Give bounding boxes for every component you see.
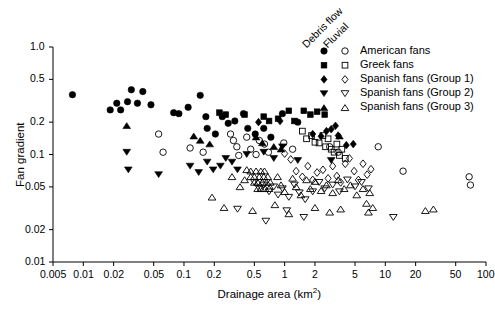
data-point <box>322 112 328 118</box>
legend-marker-fluvial <box>341 91 349 97</box>
data-point <box>318 132 324 140</box>
data-point <box>234 167 242 173</box>
data-point <box>185 104 191 110</box>
legend-marker-fluvial <box>342 48 348 54</box>
data-point <box>230 137 236 143</box>
y-axis-label: Fan gradient <box>14 122 26 187</box>
y-tick-label: 0.5 <box>30 72 45 84</box>
data-point <box>242 112 248 118</box>
data-point <box>124 167 132 173</box>
data-point <box>308 112 314 118</box>
legend-marker-fluvial <box>342 62 348 68</box>
data-point <box>325 175 331 183</box>
data-point <box>293 167 299 175</box>
data-point <box>270 156 278 162</box>
data-point <box>320 166 326 174</box>
data-point <box>268 134 274 140</box>
data-point <box>327 158 335 164</box>
data-point <box>244 134 250 140</box>
legend-marker-debris-flow <box>321 76 327 84</box>
data-point <box>337 206 345 212</box>
data-point <box>270 144 278 150</box>
data-point <box>203 113 209 119</box>
data-point <box>343 141 349 149</box>
data-point <box>262 218 270 224</box>
data-point <box>300 215 308 221</box>
data-point <box>359 186 367 192</box>
data-point <box>128 87 134 93</box>
data-point <box>466 174 472 180</box>
data-point <box>292 118 298 124</box>
x-tick-label: 0.2 <box>207 268 222 280</box>
data-point <box>176 110 182 116</box>
x-axis-label: Drainage area (km2) <box>218 286 322 300</box>
data-point <box>236 152 242 158</box>
data-point <box>363 200 371 206</box>
data-point <box>286 108 292 114</box>
legend-entry-label: Spanish fans (Group 1) <box>360 72 474 84</box>
legend-marker-debris-flow <box>321 62 327 68</box>
data-point <box>222 156 230 162</box>
data-point <box>274 174 282 180</box>
data-point <box>155 131 161 137</box>
data-point <box>353 192 361 198</box>
data-point <box>160 149 166 155</box>
data-point <box>200 149 206 155</box>
data-point <box>368 165 374 173</box>
data-point <box>148 102 154 108</box>
data-point <box>204 125 210 131</box>
data-point <box>234 206 242 212</box>
data-point <box>123 123 131 129</box>
data-point <box>203 159 211 165</box>
x-tick-label: 1 <box>282 268 288 280</box>
y-tick-label: 1.0 <box>30 40 45 52</box>
data-point <box>364 171 370 179</box>
data-point <box>155 172 163 178</box>
data-point <box>124 98 130 104</box>
data-point <box>217 110 223 116</box>
x-tick-label: 0.01 <box>73 268 93 280</box>
data-point <box>134 100 140 106</box>
data-point <box>400 168 406 174</box>
legend-marker-fluvial <box>342 76 348 84</box>
legend-entry-label: Spanish fans (Group 2) <box>360 86 474 98</box>
data-point <box>107 107 113 113</box>
x-tick-label: 10 <box>379 268 391 280</box>
data-point <box>225 120 231 126</box>
data-point <box>187 145 193 151</box>
y-tick-label: 0.05 <box>25 180 45 192</box>
data-point <box>329 190 337 196</box>
data-point <box>245 125 251 131</box>
data-point <box>314 169 320 177</box>
data-point <box>195 170 203 176</box>
data-point <box>289 146 295 152</box>
y-tick-label: 0.01 <box>25 255 45 267</box>
data-point <box>223 112 229 118</box>
data-point <box>217 163 225 169</box>
data-point <box>206 141 214 147</box>
data-point <box>271 202 279 208</box>
data-point <box>330 162 336 170</box>
data-point <box>261 114 267 120</box>
x-tick-label: 0.02 <box>104 268 124 280</box>
data-point <box>190 133 198 139</box>
legend-entry-label: Spanish fans (Group 3) <box>360 100 474 112</box>
data-point <box>212 131 218 137</box>
data-point <box>234 144 240 150</box>
x-tick-label: 20 <box>410 268 422 280</box>
data-point <box>288 156 294 164</box>
data-point <box>422 208 430 214</box>
x-tick-label: 0.5 <box>247 268 262 280</box>
data-point <box>305 162 311 170</box>
legend-marker-debris-flow <box>320 105 328 111</box>
data-point <box>140 88 146 94</box>
data-point <box>228 159 236 165</box>
data-point <box>360 160 366 168</box>
data-point <box>243 152 251 158</box>
data-point <box>209 167 217 173</box>
data-point <box>186 163 194 169</box>
y-tick-label: 0.2 <box>30 115 45 127</box>
data-point <box>351 167 357 175</box>
legend-marker-debris-flow <box>320 91 328 97</box>
